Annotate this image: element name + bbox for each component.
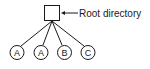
child-node-c: C <box>81 46 95 60</box>
root-pointer-arrow <box>61 11 78 15</box>
root-directory-label: Root directory <box>79 8 141 19</box>
child-node-label: A <box>38 48 44 58</box>
child-node-a1: A <box>10 46 24 60</box>
child-node-b: B <box>58 46 72 60</box>
child-node-label: B <box>61 48 67 58</box>
tree-edges <box>21 21 84 46</box>
root-directory-node <box>45 6 60 21</box>
child-node-label: A <box>14 48 20 58</box>
child-node-label: C <box>85 48 92 58</box>
directory-tree-diagram: Root directory A A B C <box>0 0 150 69</box>
child-node-a2: A <box>34 46 48 60</box>
